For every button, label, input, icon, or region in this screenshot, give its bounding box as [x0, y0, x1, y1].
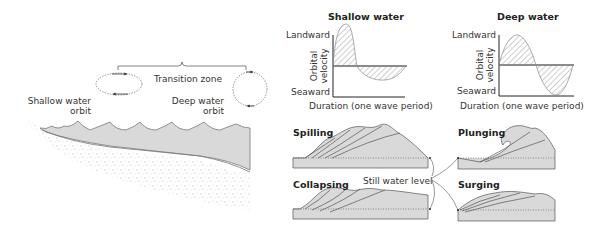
- shallow-y-axis-label: Orbital velocity: [309, 46, 329, 86]
- shallow-orbit-ellipse: [96, 73, 142, 95]
- shallow-orbit-label-line1: Shallow water: [25, 96, 91, 106]
- spilling-label: Spilling: [293, 128, 333, 138]
- deep-x-axis-label: Duration (one wave period): [460, 101, 584, 111]
- plunging-label: Plunging: [458, 128, 505, 138]
- deep-y-top-label: Landward: [444, 30, 496, 40]
- still-water-level-label: Still water level: [363, 176, 433, 186]
- deep-orbit-label-line2: orbit: [160, 106, 224, 116]
- still-water-level-leaders: [429, 157, 458, 210]
- collapsing-label: Collapsing: [293, 180, 349, 190]
- transition-zone-label: Transition zone: [152, 74, 224, 84]
- shallow-orbit-label-line2: orbit: [25, 106, 91, 116]
- shallow-y-axis-line2: velocity: [319, 46, 329, 86]
- surging-breaker: [457, 191, 555, 221]
- shallow-y-bottom-label: Seaward: [278, 87, 330, 97]
- collapsing-breaker: [293, 188, 428, 219]
- nearshore-profile: [28, 62, 267, 210]
- deep-chart-title: Deep water: [497, 12, 559, 22]
- deep-orbit-circle: [233, 72, 267, 106]
- shallow-water-velocity-chart: [333, 24, 407, 97]
- deep-y-axis-line2: velocity: [485, 45, 495, 85]
- deep-water-velocity-chart: [499, 35, 574, 96]
- shallow-y-top-label: Landward: [278, 30, 330, 40]
- deep-y-bottom-label: Seaward: [444, 86, 496, 96]
- shallow-chart-title: Shallow water: [328, 12, 404, 22]
- deep-y-axis-line1: Orbital: [475, 45, 485, 85]
- transition-zone-bracket: [118, 62, 246, 70]
- deep-orbit-label-line1: Deep water: [160, 96, 224, 106]
- deep-y-axis-label: Orbital velocity: [475, 45, 495, 85]
- surging-label: Surging: [458, 180, 500, 190]
- shallow-y-axis-line1: Orbital: [309, 46, 319, 86]
- shallow-x-axis-label: Duration (one wave period): [309, 101, 433, 111]
